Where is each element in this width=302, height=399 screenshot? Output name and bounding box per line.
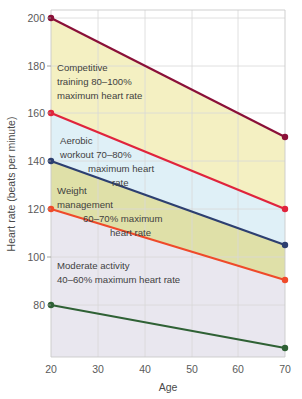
- marker-60-end: [282, 277, 288, 283]
- y-tick-200: 200: [27, 12, 45, 24]
- competitive-label-line-2: training 80–100%: [57, 76, 132, 87]
- y-tick-120: 120: [27, 203, 45, 215]
- aerobic-label-line-1: Aerobic: [60, 135, 93, 146]
- marker-80-end: [282, 206, 288, 212]
- x-tick-60: 60: [232, 363, 244, 375]
- competitive-label-line-3: maximum heart rate: [57, 90, 142, 101]
- y-tick-100: 100: [27, 251, 45, 263]
- x-tick-20: 20: [45, 363, 57, 375]
- weight-label-line-1: Weight: [57, 185, 87, 196]
- x-tick-30: 30: [92, 363, 104, 375]
- y-tick-140: 140: [27, 155, 45, 167]
- marker-100-end: [282, 134, 288, 140]
- marker-40-end: [282, 345, 288, 351]
- aerobic-label-line-4: rate: [112, 177, 129, 188]
- y-axis-title: Heart rate (beats per minute): [5, 117, 17, 252]
- x-axis-title: Age: [159, 381, 178, 393]
- weight-label-line-4: heart rate: [110, 227, 151, 238]
- y-tick-160: 160: [27, 107, 45, 119]
- y-tick-180: 180: [27, 60, 45, 72]
- marker-70-end: [282, 242, 288, 248]
- chart-svg: 200 180 160 140 120 100 80 20 30 40 50 6…: [0, 0, 302, 399]
- y-tick-80: 80: [33, 299, 45, 311]
- heart-rate-zone-chart: 200 180 160 140 120 100 80 20 30 40 50 6…: [0, 0, 302, 399]
- aerobic-label-line-2: workout 70–80%: [59, 149, 132, 160]
- x-tick-70: 70: [279, 363, 291, 375]
- weight-label-line-3: 60–70% maximum: [83, 213, 162, 224]
- x-tick-40: 40: [139, 363, 151, 375]
- moderate-label-line-1: Moderate activity: [57, 260, 130, 271]
- aerobic-label-line-3: maximum heart: [88, 163, 154, 174]
- moderate-label-line-2: 40–60% maximum heart rate: [57, 274, 180, 285]
- weight-label-line-2: management: [57, 199, 113, 210]
- competitive-label-line-1: Competitive: [57, 62, 108, 73]
- x-tick-50: 50: [186, 363, 198, 375]
